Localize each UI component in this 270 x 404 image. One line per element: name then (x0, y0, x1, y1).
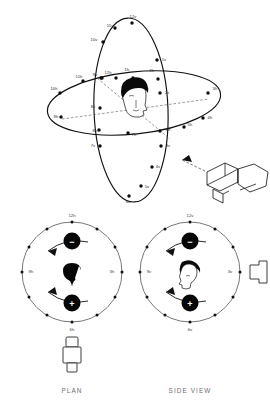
label-3h: 3h (213, 86, 218, 91)
plan-positive-marker: + (64, 295, 81, 312)
side-view: − + 12v 3v 6v 9v SIDE VIEW (139, 213, 268, 394)
side-head-profile (179, 260, 200, 289)
label-9v: 9v (93, 72, 98, 77)
plan-arrowhead-top (48, 248, 57, 256)
patient-head-3d (121, 77, 148, 117)
plan-label-3h: 3h (110, 269, 115, 274)
plan-arrowhead-bottom (48, 287, 57, 295)
side-label-9v: 9v (147, 269, 152, 274)
radiographic-clock-position-figure: 12h 1h 2h 3h 4h 5h 6h 7h 8h 9h 10h 11h 1… (0, 0, 270, 404)
label-11h: 11h (76, 74, 83, 79)
plan-label-6h: 6h (70, 327, 75, 332)
side-label-6v: 6v (188, 327, 193, 332)
label-4v: 4v (156, 164, 161, 169)
label-1h: 1h (125, 67, 130, 72)
label-11v: 11v (107, 23, 114, 28)
label-12v: 12v (130, 14, 138, 19)
plan-negative-symbol: − (69, 237, 74, 247)
plan-caption: PLAN (61, 387, 82, 394)
side-view-caption: SIDE VIEW (169, 387, 212, 394)
plan-view: − + 12h 3h 6h 9h PLAN (21, 213, 124, 394)
side-negative-marker: − (182, 233, 199, 250)
x-ray-tube (207, 163, 268, 203)
label-7v: 7v (91, 143, 96, 148)
label-5h: 5h (188, 122, 193, 127)
tube-aim-arrow (182, 155, 205, 171)
label-5v: 5v (145, 184, 150, 189)
plan-negative-marker: − (64, 233, 81, 250)
label-12h: 12h (104, 70, 112, 75)
label-2v: 2v (165, 90, 170, 95)
side-arrowhead-top (166, 248, 175, 256)
side-negative-symbol: − (187, 237, 192, 247)
label-1v: 1v (162, 57, 167, 62)
side-label-12v: 12v (187, 213, 195, 218)
label-7h: 7h (132, 132, 137, 137)
side-label-3v: 3v (228, 269, 233, 274)
label-10h: 10h (50, 86, 58, 91)
label-10v: 10v (91, 37, 99, 42)
side-tube-icon (250, 261, 267, 283)
plan-head-top-view (63, 263, 81, 286)
label-8h: 8h (93, 128, 98, 133)
side-positive-marker: + (182, 295, 199, 312)
main-diagram: 12h 1h 2h 3h 4h 5h 6h 7h 8h 9h 10h 11h 1… (44, 14, 268, 204)
label-2h: 2h (150, 68, 155, 73)
plan-label-9h: 9h (29, 269, 34, 274)
label-3v: 3v (166, 143, 171, 148)
label-4h: 4h (208, 115, 213, 120)
side-positive-symbol: + (187, 299, 192, 309)
plan-positive-symbol: + (69, 299, 74, 309)
plan-tube-icon (63, 337, 81, 372)
label-8v: 8v (91, 104, 96, 109)
plan-label-12h: 12h (68, 213, 76, 218)
label-9h: 9h (54, 114, 59, 119)
side-arrowhead-bottom (166, 287, 175, 295)
label-6h: 6h (166, 127, 171, 132)
